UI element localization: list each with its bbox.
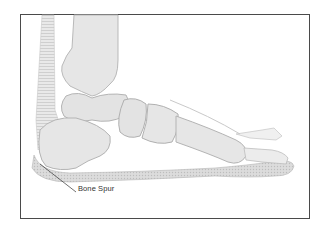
navicular [119, 99, 147, 138]
cuneiform [142, 104, 178, 143]
foot-skeleton-illustration [0, 0, 329, 231]
tibia [62, 15, 118, 96]
phalanges [244, 148, 288, 164]
metatarsal [176, 116, 246, 163]
small-toes [236, 128, 282, 140]
bone-spur-label: Bone Spur [78, 184, 114, 193]
calcaneus [39, 118, 110, 170]
